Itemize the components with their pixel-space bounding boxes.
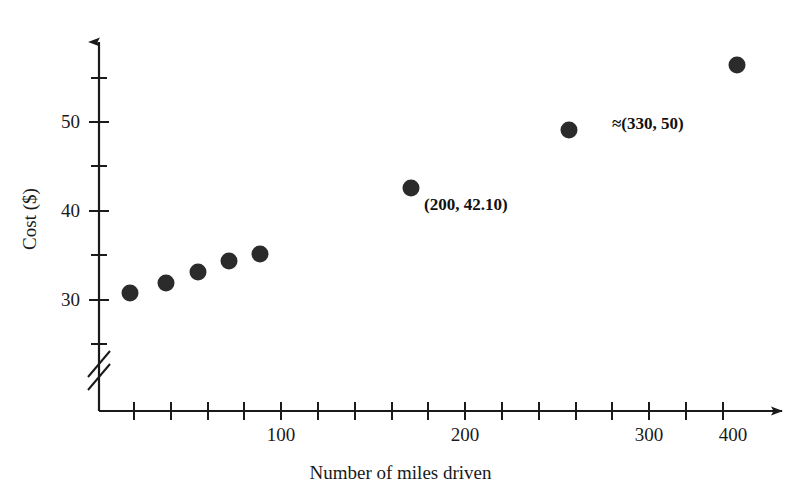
data-point-300 <box>561 122 578 139</box>
y-tick-label-40: 40 <box>38 200 80 222</box>
plot-canvas <box>0 0 801 499</box>
y-tick-label-30: 30 <box>38 289 80 311</box>
data-point-group <box>122 57 746 302</box>
scatter-plot-figure: 50 40 30 100 200 300 400 (200, 42.10) ≈(… <box>0 0 801 499</box>
data-point <box>122 285 139 302</box>
data-point-200 <box>403 180 420 197</box>
data-point <box>252 246 269 263</box>
data-point <box>158 275 175 292</box>
y-axis-group <box>88 42 110 411</box>
data-point-400 <box>729 57 746 74</box>
x-axis-title: Number of miles driven <box>0 462 801 484</box>
x-axis-group <box>99 402 782 420</box>
x-tick-label-300: 300 <box>635 424 664 446</box>
annotation-point-330: ≈(330, 50) <box>612 114 684 134</box>
data-point <box>221 253 238 270</box>
x-tick-label-100: 100 <box>267 424 296 446</box>
x-tick-label-200: 200 <box>451 424 480 446</box>
annotation-point-200: (200, 42.10) <box>424 195 508 215</box>
y-tick-label-50: 50 <box>38 111 80 133</box>
x-tick-label-400: 400 <box>719 424 748 446</box>
y-axis-title: Cost ($) <box>19 159 41 279</box>
data-point <box>190 264 207 281</box>
